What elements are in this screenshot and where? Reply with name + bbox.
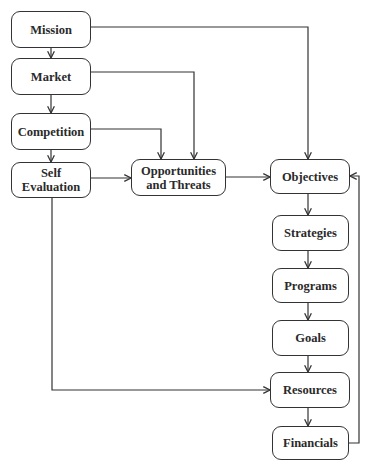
node-competition: Competition [11,113,91,150]
node-label: Resources [283,383,337,397]
node-resources: Resources [270,372,350,408]
node-label: Mission [30,23,72,37]
node-label: Goals [295,331,326,345]
node-self-evaluation: Self Evaluation [11,162,91,198]
edge-financials-objectives [349,176,359,443]
node-label: Financials [283,436,338,450]
edge-self-resources [52,198,270,390]
node-label: Objectives [282,170,338,184]
edge-market-opportunities [91,72,194,159]
node-label: Strategies [284,226,337,240]
node-programs: Programs [272,268,349,303]
node-market: Market [11,58,91,95]
edge-competition-opportunities [91,129,161,159]
edge-mission-objectives [91,27,308,159]
node-opportunities-threats: Opportunities and Threats [131,159,226,196]
node-label: Self Evaluation [22,166,80,194]
node-label: Programs [284,279,337,293]
node-financials: Financials [272,426,349,460]
node-label: Market [31,70,71,84]
node-label: Opportunities and Threats [141,164,216,192]
node-objectives: Objectives [270,159,350,194]
node-goals: Goals [272,320,349,356]
node-strategies: Strategies [272,215,349,251]
node-mission: Mission [11,11,91,48]
node-label: Competition [18,125,85,139]
